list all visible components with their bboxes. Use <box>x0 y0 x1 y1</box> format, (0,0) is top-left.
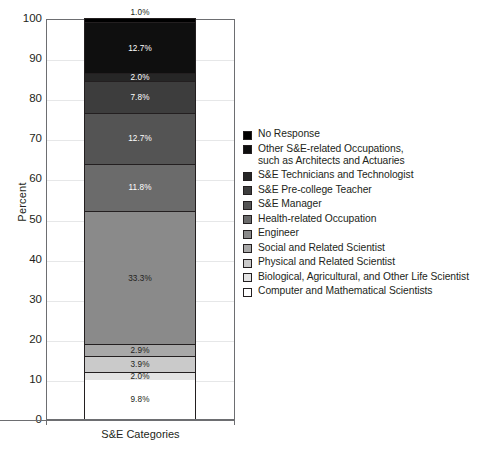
legend-swatch-icon <box>243 201 252 210</box>
legend-swatch-icon <box>243 244 252 253</box>
bar-segment[interactable]: 3.9% <box>85 356 195 372</box>
legend-item[interactable]: Other S&E-related Occupations,such as Ar… <box>243 143 485 167</box>
legend-item-label: Health-related Occupation <box>258 213 376 225</box>
legend-swatch-icon <box>243 230 252 239</box>
legend-item-label: Computer and Mathematical Scientists <box>258 285 432 297</box>
bar-segment-value-label: 2.0% <box>130 73 149 82</box>
bar-segment-value-label: 2.0% <box>130 372 149 381</box>
legend-swatch-icon <box>243 273 252 282</box>
legend-item-label: S&E Manager <box>258 198 322 210</box>
bar-segment-value-label: 33.3% <box>128 274 152 283</box>
x-axis-title: S&E Categories <box>46 428 235 440</box>
y-tick-label-50: 50 <box>14 214 42 225</box>
y-tick-label-20: 20 <box>14 334 42 345</box>
legend-item-label: Social and Related Scientist <box>258 242 385 254</box>
stacked-bar[interactable]: 9.8%2.0%3.9%2.9%33.3%11.8%12.7%7.8%2.0%1… <box>84 18 196 419</box>
y-tick-label-80: 80 <box>14 93 42 104</box>
legend-item[interactable]: Physical and Related Scientist <box>243 256 485 268</box>
bar-segment-value-label: 12.7% <box>128 44 152 53</box>
legend-item[interactable]: S&E Manager <box>243 198 485 210</box>
legend-item[interactable]: Biological, Agricultural, and Other Life… <box>243 271 485 283</box>
legend-item-label: Physical and Related Scientist <box>258 256 395 268</box>
chart-root: Percent 1009080706050403020100 9.8%2.0%3… <box>0 0 485 456</box>
bar-segment[interactable]: 9.8% <box>85 380 195 419</box>
bar-segment[interactable]: 12.7% <box>85 113 195 164</box>
legend-swatch-icon <box>243 186 252 195</box>
bar-segment-value-label: 7.8% <box>130 93 149 102</box>
bar-segment[interactable]: 2.0% <box>85 73 195 81</box>
bar-segment[interactable]: 2.0% <box>85 372 195 380</box>
y-tick-label-90: 90 <box>14 53 42 64</box>
bar-segment-value-label: 11.8% <box>128 183 151 192</box>
bar-segment[interactable]: 33.3% <box>85 211 195 345</box>
bar-segment-value-label: 12.7% <box>128 134 152 143</box>
bar-segment[interactable]: 11.8% <box>85 164 195 211</box>
y-tick-label-70: 70 <box>14 133 42 144</box>
legend-swatch-icon <box>243 172 252 181</box>
legend-item-label: S&E Pre-college Teacher <box>258 184 372 196</box>
bar-segment-value-label: 9.8% <box>130 395 149 404</box>
y-tick-label-100: 100 <box>14 13 42 24</box>
x-tick-left <box>46 420 47 425</box>
legend-swatch-icon <box>243 259 252 268</box>
x-tick-right <box>234 420 235 425</box>
bar-segment[interactable]: 7.8% <box>85 81 195 112</box>
legend-item-label: S&E Technicians and Technologist <box>258 169 413 181</box>
legend-swatch-icon <box>243 145 252 154</box>
legend-swatch-icon <box>243 215 252 224</box>
legend-item[interactable]: S&E Pre-college Teacher <box>243 184 485 196</box>
legend-item-label: No Response <box>258 128 320 140</box>
bar-segment[interactable]: 12.7% <box>85 22 195 73</box>
y-axis-ticks: 1009080706050403020100 <box>12 0 42 456</box>
legend-item[interactable]: Social and Related Scientist <box>243 242 485 254</box>
bar-segment-value-label: 1.0% <box>130 8 149 17</box>
legend-item-label: Engineer <box>258 227 299 239</box>
bar-segment[interactable]: 1.0% <box>85 18 195 22</box>
bar-segment-value-label: 3.9% <box>130 360 149 369</box>
legend-item[interactable]: Health-related Occupation <box>243 213 485 225</box>
x-axis-line <box>0 420 235 421</box>
bar-segment-value-label: 2.9% <box>130 346 149 355</box>
y-tick-label-60: 60 <box>14 173 42 184</box>
legend-swatch-icon <box>243 288 252 297</box>
legend-item[interactable]: Engineer <box>243 227 485 239</box>
legend-item-label: Other S&E-related Occupations,such as Ar… <box>258 143 405 167</box>
y-tick-label-10: 10 <box>14 374 42 385</box>
bar-segment[interactable]: 2.9% <box>85 344 195 356</box>
y-tick-label-30: 30 <box>14 294 42 305</box>
legend-item[interactable]: No Response <box>243 128 485 140</box>
legend-item[interactable]: Computer and Mathematical Scientists <box>243 285 485 297</box>
legend: No ResponseOther S&E-related Occupations… <box>243 128 485 300</box>
legend-item[interactable]: S&E Technicians and Technologist <box>243 169 485 181</box>
plot-area: 9.8%2.0%3.9%2.9%33.3%11.8%12.7%7.8%2.0%1… <box>46 19 235 420</box>
y-tick-label-40: 40 <box>14 254 42 265</box>
legend-swatch-icon <box>243 131 252 140</box>
legend-item-label: Biological, Agricultural, and Other Life… <box>258 271 469 283</box>
